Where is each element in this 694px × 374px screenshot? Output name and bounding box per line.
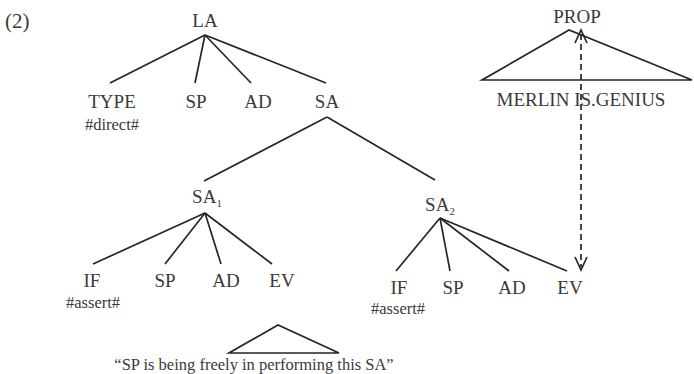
sa1-node-sp: SP [154,271,175,290]
sa-edges [204,117,435,181]
prop-triangle [482,30,692,80]
node-sa2-subscript: 2 [449,205,455,217]
sa2-edges [396,218,567,271]
sa1-node-if: IF [84,271,101,290]
la-edges [110,35,326,83]
prop-content: MERLIN IS.GENIUS [497,90,666,109]
node-type: TYPE [88,92,136,111]
ev-triangle [229,325,339,353]
sa2-node-ev: EV [557,278,582,297]
sa2-node-ad: AD [498,278,525,297]
node-sa1-subscript: 1 [216,197,222,209]
ev-gloss: “SP is being freely in performing this S… [114,357,393,374]
node-ad: AD [244,92,271,111]
sa1-annotation-assert: #assert# [66,295,120,312]
node-prop: PROP [553,7,601,26]
node-la: LA [192,11,217,30]
example-number: (2) [5,11,30,32]
sa1-node-ad: AD [212,271,239,290]
node-sa2-label: SA [425,194,449,215]
node-sa: SA [315,92,339,111]
node-sa2: SA2 [425,195,455,214]
node-sa1: SA1 [192,187,222,206]
annotation-direct: #direct# [85,117,139,134]
node-sa1-label: SA [192,186,216,207]
sa2-node-sp: SP [442,278,463,297]
node-sp: SP [185,92,206,111]
sa2-node-if: IF [391,278,408,297]
sa2-annotation-assert: #assert# [371,301,425,318]
dashed-arrow [575,30,587,270]
sa1-edges [93,213,272,264]
sa1-node-ev: EV [269,271,294,290]
